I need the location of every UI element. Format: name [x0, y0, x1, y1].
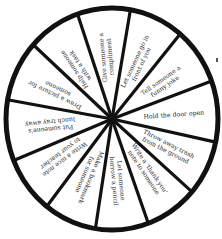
edge-mark — [216, 58, 218, 62]
kindness-spinner-wheel[interactable]: Hold the door openTell someone afunny jo… — [0, 0, 222, 239]
wheel-hub — [108, 115, 116, 123]
